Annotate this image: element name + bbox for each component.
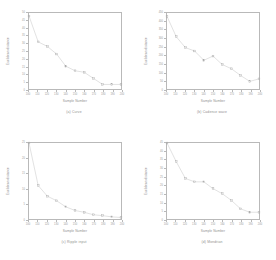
y-tick-mark <box>164 194 166 195</box>
panel-caption-d: (d) Mondrian <box>156 240 268 244</box>
y-tick-label: 35 <box>149 158 163 161</box>
y-tick-mark <box>164 168 166 169</box>
x-tick-label: 190 <box>248 93 252 96</box>
plot-panel-d: Euclidean distance Sample Number (d) Mon… <box>138 130 276 260</box>
y-tick-mark <box>26 67 28 68</box>
y-tick-mark <box>26 189 28 190</box>
x-tick-label: 190 <box>110 93 114 96</box>
y-tick-mark <box>26 204 28 205</box>
y-tick-mark <box>164 81 166 82</box>
y-tick-label: 250 <box>149 45 163 48</box>
panel-caption-a: (a) Curve <box>18 110 130 114</box>
x-axis-label-d: Sample Number <box>166 229 260 233</box>
plot-svg-a <box>29 13 121 89</box>
y-tick-label: 0 <box>11 219 25 222</box>
y-tick-label: 150 <box>149 63 163 66</box>
y-tick-mark <box>26 12 28 13</box>
x-tick-label: 100 <box>26 93 30 96</box>
y-tick-mark <box>164 73 166 74</box>
y-tick-label: 5 <box>149 210 163 213</box>
x-tick-label: 180 <box>101 223 105 226</box>
x-axis-label-c: Sample Number <box>28 229 122 233</box>
y-tick-mark <box>26 158 28 159</box>
y-tick-mark <box>164 159 166 160</box>
x-tick-label: 140 <box>201 223 205 226</box>
x-tick-label: 150 <box>211 93 215 96</box>
y-tick-mark <box>164 211 166 212</box>
y-tick-mark <box>26 74 28 75</box>
y-tick-mark <box>164 12 166 13</box>
plot-area-b <box>166 12 260 90</box>
x-tick-label: 190 <box>110 223 114 226</box>
x-tick-label: 140 <box>63 223 67 226</box>
data-point-marker <box>166 16 168 18</box>
data-series-line <box>29 143 121 217</box>
y-tick-mark <box>26 220 28 221</box>
y-tick-mark <box>164 220 166 221</box>
plot-panel-c: Euclidean distance Sample Number (c) Rip… <box>0 130 138 260</box>
x-tick-label: 170 <box>230 93 234 96</box>
plot-area-d <box>166 142 260 220</box>
y-tick-label: 350 <box>149 28 163 31</box>
x-tick-label: 200 <box>258 223 262 226</box>
x-tick-label: 130 <box>54 93 58 96</box>
y-tick-mark <box>26 82 28 83</box>
x-tick-label: 150 <box>73 93 77 96</box>
x-axis-label-b: Sample Number <box>166 99 260 103</box>
y-tick-mark <box>26 51 28 52</box>
y-axis-label-d: Euclidean distance <box>142 142 150 220</box>
y-tick-mark <box>164 185 166 186</box>
y-tick-label: 300 <box>149 37 163 40</box>
x-tick-label: 200 <box>258 93 262 96</box>
y-tick-mark <box>26 142 28 143</box>
y-tick-label: 35 <box>11 34 25 37</box>
y-tick-mark <box>26 90 28 91</box>
plot-svg-b <box>167 13 259 89</box>
x-tick-label: 130 <box>192 93 196 96</box>
y-tick-label: 0 <box>149 89 163 92</box>
y-tick-label: 45 <box>11 18 25 21</box>
y-tick-mark <box>164 64 166 65</box>
y-tick-mark <box>164 47 166 48</box>
x-tick-label: 200 <box>120 93 124 96</box>
y-tick-label: 5 <box>11 203 25 206</box>
y-tick-label: 0 <box>11 89 25 92</box>
x-axis-label-a: Sample Number <box>28 99 122 103</box>
y-tick-label: 15 <box>149 193 163 196</box>
x-tick-label: 140 <box>201 93 205 96</box>
y-tick-mark <box>164 203 166 204</box>
x-tick-label: 160 <box>82 93 86 96</box>
x-tick-label: 100 <box>26 223 30 226</box>
y-tick-label: 0 <box>149 219 163 222</box>
x-tick-label: 180 <box>101 93 105 96</box>
y-tick-mark <box>164 177 166 178</box>
x-tick-label: 160 <box>220 223 224 226</box>
y-tick-label: 50 <box>11 11 25 14</box>
x-tick-label: 170 <box>92 93 96 96</box>
y-tick-label: 10 <box>11 187 25 190</box>
y-tick-mark <box>164 142 166 143</box>
x-tick-label: 160 <box>220 93 224 96</box>
y-tick-mark <box>26 20 28 21</box>
x-tick-label: 100 <box>164 223 168 226</box>
y-tick-label: 10 <box>149 201 163 204</box>
y-tick-mark <box>26 173 28 174</box>
x-tick-label: 190 <box>248 223 252 226</box>
y-axis-label-c: Euclidean distance <box>4 142 12 220</box>
x-tick-label: 180 <box>239 223 243 226</box>
y-tick-label: 30 <box>149 167 163 170</box>
y-tick-mark <box>26 43 28 44</box>
x-tick-label: 120 <box>183 223 187 226</box>
y-tick-mark <box>164 90 166 91</box>
y-tick-label: 45 <box>149 141 163 144</box>
x-tick-label: 110 <box>35 93 39 96</box>
y-tick-label: 40 <box>11 26 25 29</box>
x-tick-label: 170 <box>92 223 96 226</box>
x-tick-label: 140 <box>63 93 67 96</box>
x-tick-label: 200 <box>120 223 124 226</box>
x-tick-label: 150 <box>73 223 77 226</box>
figure-container: Euclidean distance Sample Number (a) Cur… <box>0 0 276 260</box>
y-tick-label: 20 <box>11 57 25 60</box>
y-tick-mark <box>164 21 166 22</box>
x-tick-label: 180 <box>239 93 243 96</box>
